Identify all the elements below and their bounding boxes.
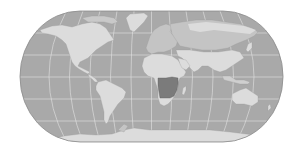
map-canvas: [0, 0, 298, 149]
world-map: Southern Africa: [0, 0, 298, 149]
